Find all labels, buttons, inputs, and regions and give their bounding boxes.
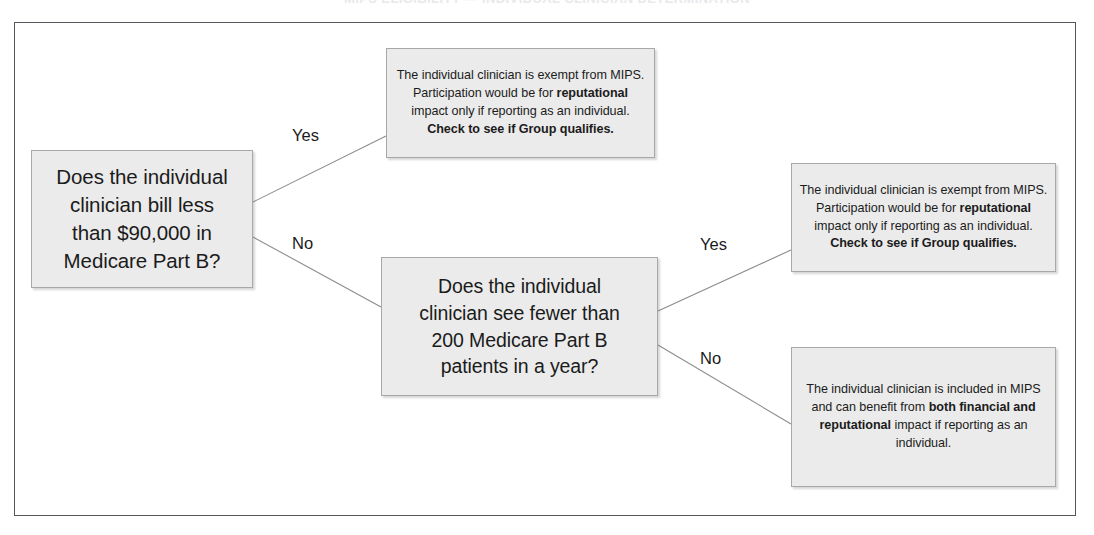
outcome-right-bold-1: reputational	[960, 201, 1031, 215]
outcome-right-part-2: impact only if reporting as an individua…	[814, 219, 1032, 233]
decision-1-line-2: clinician bill less	[70, 193, 214, 216]
outcome-node-included-text: The individual clinician is included in …	[792, 381, 1055, 453]
edge-label-yes-patients: Yes	[700, 235, 727, 254]
edge-label-yes-billing: Yes	[292, 126, 319, 145]
decision-1-line-4: Medicare Part B?	[64, 249, 221, 272]
outcome-top-bold-2: Check to see if Group qualifies.	[427, 122, 614, 136]
outcome-top-bold-1: reputational	[557, 86, 628, 100]
outcome-top-part-2: impact only if reporting as an individua…	[411, 104, 629, 118]
decision-2-line-4: patients in a year?	[441, 355, 598, 377]
decision-2-line-1: Does the individual	[438, 275, 601, 297]
decision-2-line-3: 200 Medicare Part B	[432, 329, 608, 351]
decision-2-line-2: clinician see fewer than	[419, 302, 619, 324]
outcome-node-exempt-top-text: The individual clinician is exempt from …	[387, 67, 654, 139]
decision-node-patient-count-text: Does the individual clinician see fewer …	[382, 273, 657, 381]
clipped-title-remnant: MIPS ELIGIBILITY — INDIVIDUAL CLINICIAN …	[0, 0, 1094, 5]
outcome-node-exempt-right[interactable]: The individual clinician is exempt from …	[791, 163, 1056, 272]
decision-node-billing-threshold[interactable]: Does the individual clinician bill less …	[31, 150, 253, 288]
decision-1-line-1: Does the individual	[56, 165, 227, 188]
edge-label-no-patients: No	[700, 349, 721, 368]
outcome-node-included[interactable]: The individual clinician is included in …	[791, 347, 1056, 487]
edge-label-no-billing: No	[292, 234, 313, 253]
flowchart-canvas: MIPS ELIGIBILITY — INDIVIDUAL CLINICIAN …	[0, 0, 1094, 535]
outcome-right-bold-2: Check to see if Group qualifies.	[830, 236, 1017, 250]
decision-node-patient-count[interactable]: Does the individual clinician see fewer …	[381, 257, 658, 396]
outcome-node-exempt-right-text: The individual clinician is exempt from …	[792, 182, 1055, 254]
decision-1-line-3: than $90,000 in	[72, 221, 212, 244]
outcome-included-part-2: impact if reporting as an individual.	[891, 418, 1028, 450]
outcome-node-exempt-top[interactable]: The individual clinician is exempt from …	[386, 48, 655, 158]
decision-node-billing-threshold-text: Does the individual clinician bill less …	[32, 163, 252, 275]
